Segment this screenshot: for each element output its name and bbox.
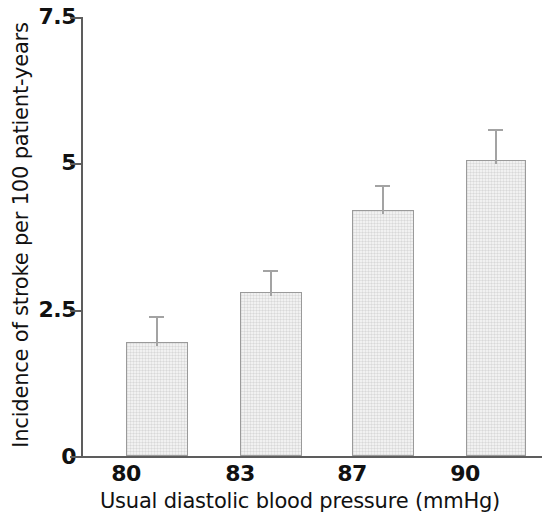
error-bar-stem-80 [156,318,158,345]
error-bar-stem-83 [270,272,272,296]
y-tick-mark-0 [70,456,81,458]
x-tick-label-87: 87 [322,463,382,485]
error-bar-stem-90 [495,131,497,164]
x-axis-title: Usual diastolic blood pressure (mmHg) [60,489,540,513]
x-tick-label-83: 83 [210,463,270,485]
x-tick-label-90: 90 [435,463,495,485]
bar-87 [352,210,414,456]
bar-80 [126,342,188,456]
error-bar-cap-87 [375,185,390,187]
bar-83 [240,292,302,456]
x-axis-line [81,456,542,458]
error-bar-cap-90 [488,129,503,131]
bar-90 [466,160,526,456]
x-tick-label-80: 80 [96,463,156,485]
plot-area [81,17,542,458]
y-axis-tick-labels: 7.5 5 2.5 0 [30,0,76,514]
bar-chart-figure: Incidence of stroke per 100 patient-year… [0,0,550,514]
error-bar-cap-80 [149,316,164,318]
error-bar-cap-83 [263,270,278,272]
y-axis-line [81,17,83,458]
error-bar-stem-87 [382,187,384,214]
y-tick-mark-7_5 [70,17,81,19]
y-tick-mark-5 [70,163,81,165]
y-tick-mark-2_5 [70,310,81,312]
